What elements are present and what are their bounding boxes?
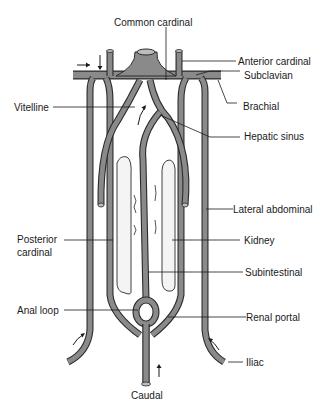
label-lateral-abdominal: Lateral abdominal <box>233 204 313 215</box>
label-caudal: Caudal <box>131 390 163 401</box>
label-kidney: Kidney <box>244 235 275 246</box>
label-brachial: Brachial <box>243 101 279 112</box>
label-hepatic-sinus: Hepatic sinus <box>244 131 304 142</box>
label-vitelline: Vitelline <box>14 102 49 113</box>
label-anterior-cardinal: Anterior cardinal <box>238 56 311 67</box>
vessels <box>68 49 224 386</box>
label-posterior-cardinal-line2: cardinal <box>17 247 52 258</box>
left-kidney <box>117 157 131 294</box>
label-renal-portal: Renal portal <box>246 312 300 323</box>
right-kidney <box>162 160 175 291</box>
label-common-cardinal: Common cardinal <box>114 17 192 28</box>
flow-arrow-up-hepatic-icon <box>138 105 146 125</box>
label-subintestinal: Subintestinal <box>245 267 302 278</box>
label-iliac: Iliac <box>246 357 264 368</box>
label-posterior-cardinal-line1: Posterior <box>17 234 57 245</box>
flow-arrow-up-caudal-icon <box>157 364 162 377</box>
flow-arrow-down-icon <box>98 55 103 70</box>
label-subclavian: Subclavian <box>244 70 293 81</box>
flow-arrow-right-icon <box>77 63 90 68</box>
label-anal-loop: Anal loop <box>17 305 59 316</box>
